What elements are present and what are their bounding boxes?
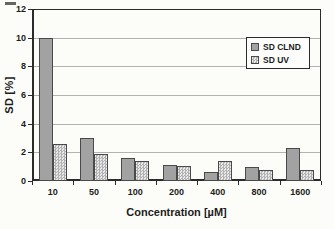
bar-sd-uv-800 <box>259 170 273 181</box>
gridline-y-6 <box>34 95 320 96</box>
y-tick-2 <box>28 152 32 153</box>
y-tick-8 <box>28 66 32 67</box>
bar-sd-clnd-100 <box>121 158 135 181</box>
x-tick-label-100: 100 <box>115 187 155 197</box>
bar-sd-clnd-800 <box>245 167 259 181</box>
x-tick-5 <box>238 181 239 185</box>
y-tick-4 <box>28 124 32 125</box>
bar-sd-uv-50 <box>94 154 108 181</box>
x-tick-label-1600: 1600 <box>280 187 320 197</box>
x-tick-label-800: 800 <box>239 187 279 197</box>
legend: SD CLND SD UV <box>246 37 310 69</box>
bar-sd-clnd-200 <box>163 165 177 181</box>
y-tick-10 <box>28 38 32 39</box>
legend-swatch-checkered <box>251 56 259 64</box>
x-axis-title: Concentration [µM] <box>32 206 321 218</box>
bar-sd-uv-100 <box>135 161 149 181</box>
gridline-y-2 <box>34 152 320 153</box>
bar-sd-uv-400 <box>218 161 232 181</box>
legend-item-sd-uv: SD UV <box>251 53 305 66</box>
y-tick-12 <box>28 9 32 10</box>
x-tick-4 <box>197 181 198 185</box>
x-tick-label-50: 50 <box>74 187 114 197</box>
x-tick-0 <box>32 181 33 185</box>
y-tick-label-4: 4 <box>0 119 26 129</box>
gridline-y-4 <box>34 124 320 125</box>
x-tick-2 <box>115 181 116 185</box>
bar-sd-clnd-50 <box>80 138 94 181</box>
x-tick-label-200: 200 <box>157 187 197 197</box>
bar-sd-clnd-1600 <box>286 148 300 181</box>
bar-sd-clnd-400 <box>204 172 218 181</box>
y-tick-label-12: 12 <box>0 4 26 14</box>
y-tick-6 <box>28 95 32 96</box>
legend-item-sd-clnd: SD CLND <box>251 40 305 53</box>
bar-sd-uv-200 <box>177 166 191 181</box>
y-tick-label-2: 2 <box>0 147 26 157</box>
y-tick-label-8: 8 <box>0 61 26 71</box>
legend-swatch-solid-gray <box>251 43 259 51</box>
x-tick-1 <box>73 181 74 185</box>
bar-sd-uv-10 <box>53 144 67 181</box>
legend-label-sd-clnd: SD CLND <box>263 42 301 52</box>
y-tick-label-0: 0 <box>0 176 26 186</box>
legend-label-sd-uv: SD UV <box>263 55 289 65</box>
bar-sd-clnd-10 <box>39 38 53 181</box>
y-tick-label-6: 6 <box>0 90 26 100</box>
x-tick-7 <box>321 181 322 185</box>
y-tick-label-10: 10 <box>0 33 26 43</box>
x-tick-label-10: 10 <box>33 187 73 197</box>
x-tick-6 <box>280 181 281 185</box>
x-tick-3 <box>156 181 157 185</box>
x-tick-label-400: 400 <box>198 187 238 197</box>
bar-chart-figure: SD [%] SD CLND SD UV Concentration [µM] … <box>0 0 334 229</box>
bar-sd-uv-1600 <box>300 170 314 181</box>
